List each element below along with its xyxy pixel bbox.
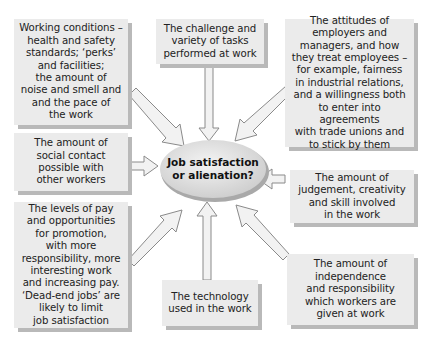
factor-pay-promotion: The levels of pay and opportunities for … bbox=[14, 202, 128, 328]
arrow-challenge bbox=[199, 62, 219, 141]
factor-social-contact: The amount of social contact possible wi… bbox=[14, 133, 128, 191]
factor-working-conditions: Working conditions – health and safety s… bbox=[14, 19, 128, 125]
factor-technology: The technology used in the work bbox=[162, 280, 258, 326]
factor-challenge-variety: The challenge and variety of tasks perfo… bbox=[156, 19, 264, 64]
factor-attitudes-employers: The attitudes of employers and managers,… bbox=[285, 19, 414, 147]
factor-independence: The amount of independence and responsib… bbox=[287, 254, 414, 325]
center-label: Job satisfaction or alienation? bbox=[161, 140, 265, 198]
arrow-social bbox=[129, 156, 158, 176]
arrow-working-conditions bbox=[129, 88, 184, 146]
factor-judgement-creativity: The amount of judgement, creativity and … bbox=[290, 170, 414, 223]
arrow-technology bbox=[197, 202, 217, 280]
arrow-independence bbox=[236, 205, 289, 260]
arrow-attitudes bbox=[235, 86, 292, 141]
arrow-pay bbox=[128, 210, 182, 266]
